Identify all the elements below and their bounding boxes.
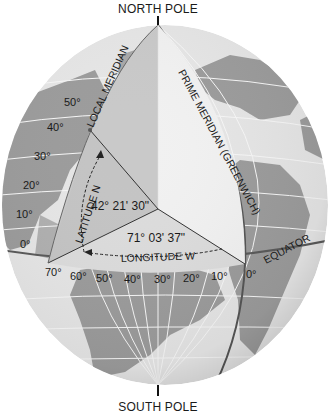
lon-tick: 40° (124, 273, 141, 285)
lat-tick: 20° (23, 179, 40, 191)
lat-tick: 10° (16, 208, 33, 220)
lon-tick: 20° (183, 272, 200, 284)
longitude-value: 71° 03' 37" (127, 231, 185, 245)
north-pole-label: NORTH POLE (118, 2, 198, 16)
south-pole-label: SOUTH POLE (118, 400, 197, 414)
lat-tick: 40° (47, 121, 64, 133)
latitude-value: 42° 21' 30" (91, 199, 149, 213)
lon-tick: 0° (246, 268, 257, 280)
lon-tick: 60° (70, 270, 87, 282)
lon-tick: 10° (211, 270, 228, 282)
lon-tick: 50° (96, 272, 113, 284)
lat-tick: 30° (34, 150, 51, 162)
lat-tick: 0° (20, 238, 31, 250)
lat-tick: 50° (64, 96, 81, 108)
globe (0, 25, 331, 385)
lon-tick: 70° (45, 266, 62, 278)
lon-tick: 30° (154, 273, 171, 285)
globe-diagram: NORTH POLE SOUTH POLE LOCAL MERIDIAN PRI… (0, 0, 331, 420)
